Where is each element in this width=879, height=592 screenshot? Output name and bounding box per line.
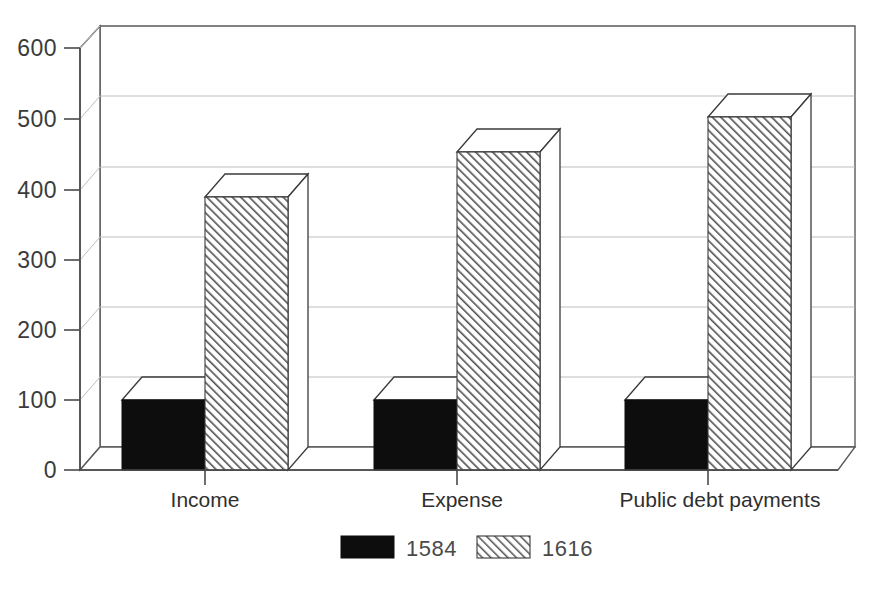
legend-entry-1616[interactable]: 1616 <box>477 536 593 561</box>
bar-front-face <box>457 152 540 470</box>
x-axis-ticks <box>205 470 708 485</box>
chart-page: 600 500 400 300 200 100 0 <box>0 0 879 592</box>
y-tick-labels: 600 500 400 300 200 100 0 <box>17 35 57 483</box>
bar-front-face <box>205 197 288 470</box>
bar-front-face <box>374 400 457 470</box>
y-tick-label-500: 500 <box>17 106 57 132</box>
category-label-expense: Expense <box>421 488 503 511</box>
bar-front-face <box>708 117 791 470</box>
bar-income-1616[interactable] <box>205 174 308 470</box>
bar-front-face <box>122 400 205 470</box>
bar-side-face <box>288 174 308 470</box>
legend-entry-1584[interactable]: 1584 <box>341 536 457 561</box>
y-tick-label-400: 400 <box>17 177 57 203</box>
bar-public-debt-payments-1616[interactable] <box>708 94 811 470</box>
legend-label-1616: 1616 <box>542 536 593 561</box>
y-tick-label-600: 600 <box>17 35 57 61</box>
legend-swatch-solid-black <box>341 536 394 558</box>
category-label-public-debt-payments: Public debt payments <box>620 488 821 511</box>
y-axis <box>64 48 80 470</box>
y-tick-label-100: 100 <box>17 387 57 413</box>
legend-swatch-diagonal-hatch <box>477 536 530 558</box>
bar-chart-figure: 600 500 400 300 200 100 0 <box>0 0 879 592</box>
legend-label-1584: 1584 <box>406 536 457 561</box>
y-tick-label-200: 200 <box>17 317 57 343</box>
bar-front-face <box>625 400 708 470</box>
bar-side-face <box>540 129 560 470</box>
x-axis-category-labels: Income Expense Public debt payments <box>171 488 821 511</box>
category-label-income: Income <box>171 488 240 511</box>
y-tick-label-0: 0 <box>44 457 57 483</box>
chart-legend: 1584 1616 <box>341 536 593 561</box>
bar-expense-1616[interactable] <box>457 129 560 470</box>
y-tick-label-300: 300 <box>17 247 57 273</box>
bar-side-face <box>791 94 811 470</box>
